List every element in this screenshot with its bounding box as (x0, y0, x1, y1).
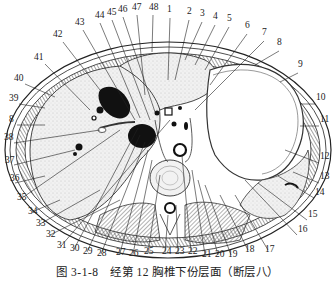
aorta (174, 144, 186, 156)
structure-label-24: 24 (162, 247, 172, 257)
structure-label-45: 45 (107, 8, 117, 18)
structure-label-31: 31 (57, 241, 67, 251)
structure-label-18: 18 (245, 245, 255, 255)
structure-label-4: 4 (213, 12, 218, 22)
structure-label-29: 29 (83, 247, 93, 257)
structure-label-9: 9 (298, 60, 303, 70)
inferior-vena-cava (128, 124, 156, 148)
structure-label-39: 39 (9, 94, 19, 104)
structure-label-28: 28 (97, 249, 107, 259)
structure-label-27: 27 (116, 248, 126, 258)
structure-label-6: 6 (245, 21, 250, 31)
structure-label-13: 13 (320, 172, 330, 182)
structure-label-30: 30 (70, 244, 80, 254)
structure-label-42: 42 (53, 30, 63, 40)
structure-label-17: 17 (265, 245, 275, 255)
structure-label-22: 22 (188, 247, 198, 257)
structure-label-35: 35 (17, 193, 27, 203)
structure-label-32: 32 (46, 230, 56, 240)
structure-label-40: 40 (14, 74, 24, 84)
structure-label-12: 12 (320, 152, 330, 162)
anatomical-cross-section-figure: 1234567891011121314151617181920212223242… (0, 0, 335, 281)
structure-label-11: 11 (320, 115, 329, 125)
structure-label-19: 19 (228, 250, 238, 260)
structure-label-5: 5 (227, 14, 232, 24)
structure-label-3: 3 (200, 9, 205, 19)
structure-label-34: 34 (28, 207, 38, 217)
structure-label-8: 8 (277, 38, 282, 48)
structure-label-7: 7 (262, 28, 267, 38)
structure-label-41: 41 (34, 53, 44, 63)
structure-label-1: 1 (167, 5, 172, 15)
structure-label-10: 10 (316, 93, 326, 103)
structure-label-43: 43 (75, 18, 85, 28)
structure-label-8: 8 (9, 115, 14, 125)
structure-label-47: 47 (132, 3, 142, 13)
structure-label-44: 44 (95, 11, 105, 21)
structure-label-14: 14 (315, 188, 325, 198)
structure-label-20: 20 (215, 250, 225, 260)
structure-label-46: 46 (118, 5, 128, 15)
structure-label-26: 26 (129, 249, 139, 259)
structure-label-25: 25 (144, 247, 154, 257)
structure-label-36: 36 (10, 174, 20, 184)
structure-label-33: 33 (36, 219, 46, 229)
structure-label-23: 23 (175, 247, 185, 257)
structure-label-48: 48 (149, 3, 159, 13)
structure-label-16: 16 (298, 225, 308, 235)
structure-label-2: 2 (187, 7, 192, 17)
structure-label-38: 38 (4, 133, 14, 143)
structure-label-15: 15 (308, 210, 318, 220)
figure-caption: 图 3-1-8 经第 12 胸椎下份层面（断层八） (0, 263, 335, 279)
structure-label-37: 37 (5, 156, 15, 166)
structure-label-21: 21 (202, 250, 212, 260)
